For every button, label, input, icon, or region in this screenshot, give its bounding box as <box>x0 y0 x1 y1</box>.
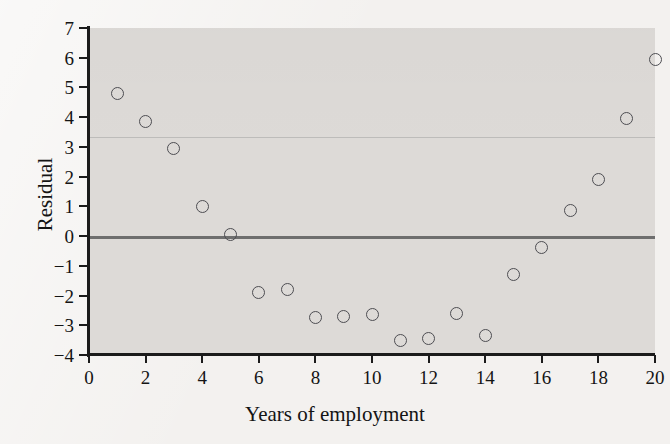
x-tick-label: 4 <box>182 368 222 387</box>
y-tick-mark <box>79 176 87 178</box>
y-tick-mark <box>79 116 87 118</box>
data-point <box>111 87 124 100</box>
x-tick-label: 12 <box>409 368 449 387</box>
data-point <box>564 204 577 217</box>
x-tick-mark <box>314 355 316 363</box>
x-tick-mark <box>371 355 373 363</box>
x-tick-label: 0 <box>69 368 109 387</box>
data-point <box>281 283 294 296</box>
x-tick-mark <box>597 355 599 363</box>
page-background: −4−3−2−101234567 02468101214161820 Years… <box>0 0 670 444</box>
y-tick-mark <box>79 265 87 267</box>
y-tick-mark <box>79 146 87 148</box>
y-tick-mark <box>79 27 87 29</box>
data-point <box>649 53 662 66</box>
data-point <box>366 308 379 321</box>
plot-area <box>89 28 655 355</box>
y-axis-line <box>87 26 90 357</box>
x-tick-label: 18 <box>578 368 618 387</box>
x-tick-label: 2 <box>126 368 166 387</box>
x-tick-label: 14 <box>465 368 505 387</box>
x-axis-title: Years of employment <box>0 402 670 427</box>
residual-scatter-figure: −4−3−2−101234567 02468101214161820 Years… <box>0 0 670 444</box>
x-tick-mark <box>145 355 147 363</box>
y-tick-label: 5 <box>50 78 74 97</box>
x-tick-mark <box>428 355 430 363</box>
y-tick-mark <box>79 57 87 59</box>
zero-line <box>89 236 655 239</box>
x-tick-label: 20 <box>635 368 670 387</box>
y-tick-mark <box>79 86 87 88</box>
x-tick-label: 6 <box>239 368 279 387</box>
y-tick-label: −3 <box>50 316 74 335</box>
x-tick-mark <box>201 355 203 363</box>
data-point <box>394 334 407 347</box>
y-axis-title: Residual <box>33 120 58 270</box>
y-tick-label: 7 <box>50 19 74 38</box>
data-point <box>196 200 209 213</box>
data-point <box>479 329 492 342</box>
x-tick-mark <box>541 355 543 363</box>
x-tick-label: 8 <box>295 368 335 387</box>
y-tick-mark <box>79 205 87 207</box>
y-tick-mark <box>79 235 87 237</box>
data-point <box>592 173 605 186</box>
y-tick-label: −2 <box>50 287 74 306</box>
x-tick-mark <box>654 355 656 363</box>
x-tick-label: 16 <box>522 368 562 387</box>
data-point <box>224 228 237 241</box>
y-tick-mark <box>79 324 87 326</box>
x-tick-mark <box>484 355 486 363</box>
x-tick-mark <box>258 355 260 363</box>
y-tick-label: −4 <box>50 346 74 365</box>
y-tick-mark <box>79 354 87 356</box>
x-tick-label: 10 <box>352 368 392 387</box>
y-tick-mark <box>79 295 87 297</box>
faint-line <box>89 137 655 138</box>
data-point <box>337 310 350 323</box>
x-tick-mark <box>88 355 90 363</box>
y-tick-label: 6 <box>50 49 74 68</box>
plot-area-shading <box>89 28 655 355</box>
